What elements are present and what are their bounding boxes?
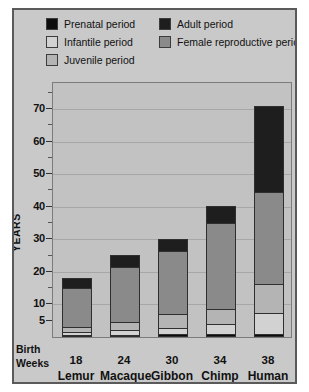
y-tick-label: 40 [33, 200, 45, 212]
legend-item: Juvenile period [46, 54, 135, 66]
birth-weeks-line1: Birth [16, 342, 52, 356]
x-tick-birth-weeks: 34 [196, 353, 244, 368]
y-tick-label: 60 [33, 135, 45, 147]
bar-segment [111, 267, 139, 321]
bar-segment [207, 324, 235, 334]
x-tick-label: Human [244, 368, 292, 384]
bar-segment [159, 314, 187, 328]
bar-segment [255, 284, 283, 314]
birth-weeks-line2: Weeks [16, 356, 52, 370]
bar-segment [63, 279, 91, 288]
bar-segment [255, 334, 283, 336]
y-tick-label: 5 [39, 314, 45, 326]
bar-segment [63, 335, 91, 336]
bar-segment [255, 192, 283, 283]
bar-segment [207, 334, 235, 336]
bar-lemur [62, 278, 92, 337]
x-tick-birth-weeks: 30 [148, 353, 196, 368]
y-tick-label: 70 [33, 102, 45, 114]
x-tick-birth-weeks: 38 [244, 353, 292, 368]
y-tick-label: 50 [33, 167, 45, 179]
x-tick-label: Chimp [196, 368, 244, 384]
legend-swatch-icon [159, 36, 171, 48]
legend-item: Prenatal period [46, 18, 135, 30]
x-axis-column: 30Gibbon [148, 353, 196, 384]
x-axis: 18Lemur24Macaque30Gibbon34Chimp38Human [52, 340, 292, 384]
legend-swatch-icon [159, 18, 171, 30]
bar-human [254, 106, 284, 337]
legend-swatch-icon [46, 54, 58, 66]
bar-segment [159, 334, 187, 336]
y-axis-title: YEARS [12, 213, 22, 252]
legend-label: Adult period [177, 18, 233, 30]
legend-item: Female reproductive period [159, 36, 297, 48]
plot-frame [52, 82, 292, 338]
legend-item: Infantile period [46, 36, 133, 48]
bar-chimp [206, 206, 236, 337]
y-tick-label: 30 [33, 232, 45, 244]
x-axis-column: 38Human [244, 353, 292, 384]
bar-segment [255, 313, 283, 333]
legend-label: Female reproductive period [177, 36, 297, 48]
bar-gibbon [158, 239, 188, 337]
x-axis-column: 24Macaque [100, 353, 148, 384]
x-tick-label: Lemur [52, 368, 100, 384]
legend-swatch-icon [46, 36, 58, 48]
x-tick-label: Macaque [100, 368, 148, 384]
bar-segment [111, 256, 139, 267]
figure-panel: Prenatal periodInfantile periodJuvenile … [12, 8, 297, 384]
y-tick-label: 20 [33, 265, 45, 277]
y-axis: YEARS 510203040506070 [14, 82, 52, 338]
bar-segment [111, 322, 139, 331]
birth-weeks-label: Birth Weeks [16, 342, 52, 370]
x-axis-column: 34Chimp [196, 353, 244, 384]
bar-segment [111, 335, 139, 336]
legend-swatch-icon [46, 18, 58, 30]
bar-macaque [110, 255, 140, 337]
bar-segment [207, 207, 235, 223]
bar-segment [159, 240, 187, 251]
y-tick-label: 10 [33, 297, 45, 309]
bar-segment [159, 251, 187, 314]
plot-area [53, 83, 291, 337]
x-axis-column: 18Lemur [52, 353, 100, 384]
bar-segment [63, 288, 91, 328]
chart-legend: Prenatal periodInfantile periodJuvenile … [46, 18, 292, 74]
x-tick-birth-weeks: 24 [100, 353, 148, 368]
legend-label: Infantile period [64, 36, 133, 48]
legend-item: Adult period [159, 18, 233, 30]
legend-label: Prenatal period [64, 18, 135, 30]
bar-segment [207, 309, 235, 325]
bar-segment [207, 223, 235, 309]
x-tick-birth-weeks: 18 [52, 353, 100, 368]
legend-label: Juvenile period [64, 54, 135, 66]
x-tick-label: Gibbon [148, 368, 196, 384]
bar-segment [255, 107, 283, 193]
